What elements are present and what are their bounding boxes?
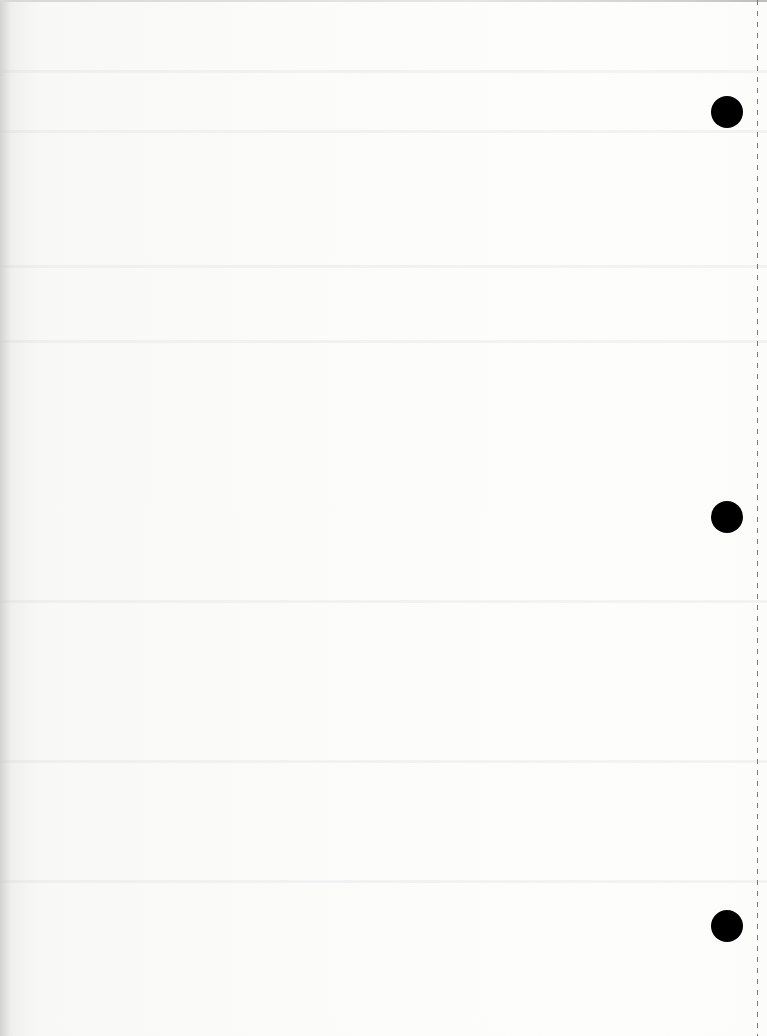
blank-scanned-page bbox=[0, 0, 767, 1036]
bleed-through-line bbox=[0, 265, 767, 268]
bleed-through-line bbox=[0, 340, 767, 343]
top-edge-line bbox=[0, 0, 767, 2]
punch-hole-bottom bbox=[711, 910, 743, 942]
bleed-through-line bbox=[0, 130, 767, 133]
bleed-through-line bbox=[0, 600, 767, 603]
punch-hole-middle bbox=[711, 501, 743, 533]
bleed-through-line bbox=[0, 880, 767, 883]
bleed-through-line bbox=[0, 70, 767, 73]
bleed-through-line bbox=[0, 760, 767, 763]
punch-hole-top bbox=[711, 96, 743, 128]
perforation-line bbox=[757, 0, 758, 1036]
